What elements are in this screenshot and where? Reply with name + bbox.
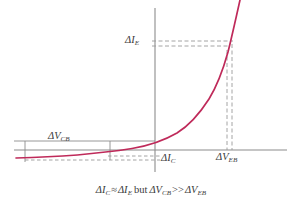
delta-veb-annotation [227,44,232,150]
figure-caption: ΔIC≈ΔIEbutΔVCB>>ΔVEB [0,184,302,197]
delta-vcb-label: ΔVCB [48,131,70,143]
delta-ie-label: ΔIE [125,35,139,47]
delta-ic-label: ΔIC [161,153,175,165]
delta-vcb-annotation [14,141,155,162]
plot-canvas [0,0,302,213]
delta-veb-label: ΔVEB [216,152,237,164]
delta-ie-annotation [152,41,233,46]
transistor-iv-characteristic-figure: ΔIE ΔIC ΔVCB ΔVEB ΔIC≈ΔIEbutΔVCB>>ΔVEB [0,0,302,213]
